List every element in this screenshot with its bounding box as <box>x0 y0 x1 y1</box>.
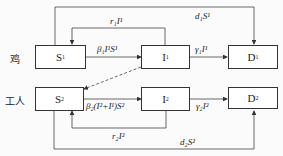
edge-label-r2: r₂I² <box>112 131 124 141</box>
edge-label-gamma2: γ₂I² <box>196 101 208 111</box>
node-s1: S1 <box>35 45 86 69</box>
edge-label-beta2: β₂(I²+I¹)S² <box>86 101 124 111</box>
node-d2: D2 <box>228 87 278 109</box>
node-i2: I2 <box>141 87 190 111</box>
edge-label-d2: d₂S² <box>180 137 195 147</box>
row-label-worker: 工人 <box>5 93 25 108</box>
edge-label-r1: r₁I¹ <box>110 16 122 26</box>
node-i1: I1 <box>141 45 190 69</box>
edge-label-beta1: β₁I¹S¹ <box>97 44 118 54</box>
node-d1: D1 <box>228 45 278 69</box>
sir-diagram: 鸡 工人 S1 I1 D1 S2 I2 D2 r₁I¹ d₁S¹ β₁I¹S¹ … <box>0 0 283 156</box>
edge-label-gamma1: γ₁I¹ <box>195 44 207 54</box>
arrows <box>0 0 283 156</box>
edge-label-d1: d₁S¹ <box>195 11 210 21</box>
node-s2: S2 <box>35 87 84 111</box>
row-label-chicken: 鸡 <box>10 51 20 66</box>
